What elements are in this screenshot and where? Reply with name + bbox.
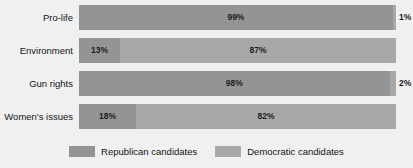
legend-item-democratic: Democratic candidates bbox=[215, 146, 344, 157]
bar-segment-value: 98% bbox=[79, 71, 390, 96]
category-label-environment: Environment bbox=[0, 38, 73, 63]
bar-segment-value: 99% bbox=[79, 5, 393, 30]
bar-segment-democratic: 87% bbox=[120, 38, 396, 63]
bar-segment-value-outside: 1% bbox=[399, 5, 411, 30]
bar-track-environment: 13% 87% bbox=[79, 38, 396, 63]
legend-item-republican: Republican candidates bbox=[69, 146, 197, 157]
bar-segment-democratic: 2% bbox=[390, 71, 396, 96]
bar-segment-republican: 99% bbox=[79, 5, 393, 30]
stacked-bar-chart: Pro-life 99% 1% 1% Environment 13% 87% bbox=[0, 0, 413, 168]
legend-swatch-icon bbox=[215, 146, 241, 157]
bar-row: Gun rights 98% 2% 2% bbox=[0, 71, 413, 96]
bar-row: Environment 13% 87% bbox=[0, 38, 413, 63]
bar-segment-republican: 98% bbox=[79, 71, 390, 96]
plot-area: Pro-life 99% 1% 1% Environment 13% 87% bbox=[0, 0, 413, 134]
bar-row: Pro-life 99% 1% 1% bbox=[0, 5, 413, 30]
bar-track-pro-life: 99% 1% bbox=[79, 5, 396, 30]
bar-segment-value: 13% bbox=[79, 38, 120, 63]
category-label-womens-issues: Women's issues bbox=[0, 104, 73, 129]
bar-segment-democratic: 82% bbox=[136, 104, 396, 129]
bar-segment-value: 18% bbox=[79, 104, 136, 129]
category-label-gun-rights: Gun rights bbox=[0, 71, 73, 96]
bar-segment-republican: 13% bbox=[79, 38, 120, 63]
bar-segment-democratic: 1% bbox=[393, 5, 396, 30]
chart-legend: Republican candidates Democratic candida… bbox=[0, 142, 413, 160]
legend-label: Democratic candidates bbox=[247, 146, 344, 157]
bar-segment-value-outside: 2% bbox=[399, 71, 411, 96]
bar-segment-value: 87% bbox=[120, 38, 396, 63]
category-label-pro-life: Pro-life bbox=[0, 5, 73, 30]
bar-track-gun-rights: 98% 2% bbox=[79, 71, 396, 96]
legend-label: Republican candidates bbox=[101, 146, 197, 157]
legend-swatch-icon bbox=[69, 146, 95, 157]
bar-segment-value: 82% bbox=[136, 104, 396, 129]
bar-segment-republican: 18% bbox=[79, 104, 136, 129]
bar-row: Women's issues 18% 82% bbox=[0, 104, 413, 129]
bar-track-womens-issues: 18% 82% bbox=[79, 104, 396, 129]
